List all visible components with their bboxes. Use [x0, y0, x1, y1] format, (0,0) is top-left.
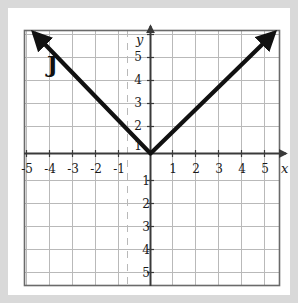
y-axis-label: y	[136, 33, 143, 46]
x-tick-5: 5	[255, 163, 275, 175]
y-tick--2: 2	[136, 198, 150, 210]
x-tick-2: 2	[186, 163, 206, 175]
y-tick--4: 4	[136, 244, 150, 256]
x-axis-label: x	[281, 162, 288, 175]
x-tick--3: -3	[61, 163, 85, 175]
x-tick--5: -5	[15, 163, 39, 175]
y-tick-3: 3	[128, 97, 142, 109]
x-tick--2: -2	[84, 163, 108, 175]
x-tick-3: 3	[209, 163, 229, 175]
curve-label-j: J	[47, 52, 58, 75]
y-tick-1: 1	[128, 140, 142, 152]
y-tick--5: 5	[136, 267, 150, 279]
x-tick--4: -4	[38, 163, 62, 175]
y-tick-4: 4	[128, 74, 142, 86]
x-tick-1: 1	[163, 163, 183, 175]
y-tick--1: 1	[136, 175, 150, 187]
coordinate-graph	[0, 0, 298, 303]
x-tick-4: 4	[232, 163, 252, 175]
x-tick--1: -1	[107, 163, 131, 175]
y-tick-5: 5	[128, 51, 142, 63]
y-tick--3: 3	[136, 221, 150, 233]
y-tick-2: 2	[128, 120, 142, 132]
